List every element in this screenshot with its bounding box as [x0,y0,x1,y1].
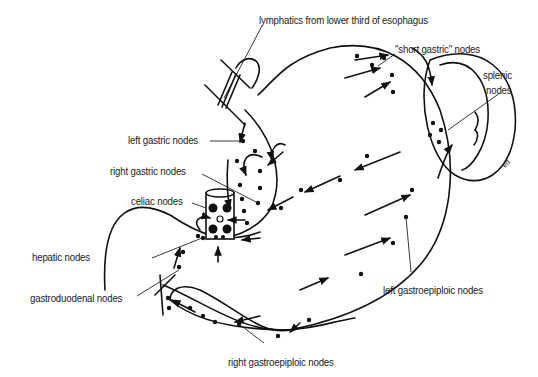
label-splenic-nodes-line1: splenic [483,69,512,81]
label-gastroduodenal-nodes: gastroduodenal nodes [30,292,122,304]
label-right-gastric-nodes: right gastric nodes [110,165,186,177]
label-short-gastric-nodes: "short gastric" nodes [395,43,480,55]
label-right-gastroepiploic-nodes: right gastroepiploic nodes [228,356,334,368]
label-splenic-nodes-line2: nodes [486,84,512,96]
label-left-gastric-nodes: left gastric nodes [128,134,198,146]
label-hepatic-nodes: hepatic nodes [32,251,90,263]
label-celiac-nodes: celiac nodes [131,195,183,207]
label-left-gastroepiploic-nodes: left gastroepiploic nodes [383,284,483,296]
artist-signature: ed [501,158,512,169]
celiac-trunk [206,189,234,239]
label-esophagus-lymphatics: lymphatics from lower third of esophagus [259,14,428,26]
stomach-illustration: ed [0,0,538,377]
lymphatic-drainage-diagram: ed lymphatics from lower third of esopha… [0,0,538,377]
